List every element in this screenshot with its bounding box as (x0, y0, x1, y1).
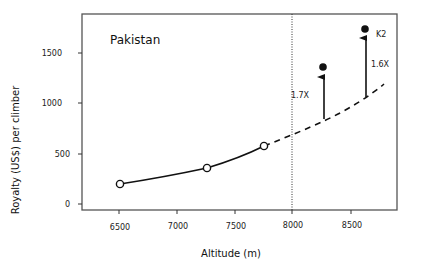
ratio-label-1-7x: 1.7X (291, 91, 310, 100)
y-axis: 0 500 1000 1500 (42, 49, 82, 209)
chart: 0 500 1000 1500 6500 7000 7500 8000 8500… (0, 0, 421, 271)
data-point-open (116, 180, 123, 187)
x-tick-label: 6500 (110, 223, 130, 232)
data-point-open (260, 142, 267, 149)
k2-label: K2 (376, 30, 386, 39)
data-point-filled-k2 (361, 25, 369, 33)
y-tick-label: 0 (65, 200, 70, 209)
x-tick-label: 8000 (283, 221, 303, 230)
y-tick-label: 1500 (42, 49, 62, 58)
x-tick-label: 7500 (226, 222, 246, 231)
x-tick-label: 8500 (342, 221, 362, 230)
y-axis-label: Royalty (US$) per climber (10, 85, 21, 215)
y-tick-label: 500 (55, 150, 70, 159)
y-tick-label: 1000 (42, 99, 62, 108)
data-point-filled (319, 63, 327, 71)
chart-title: Pakistan (110, 33, 160, 47)
observed-curve (120, 146, 264, 184)
x-tick-label: 7000 (168, 222, 188, 231)
x-axis: 6500 7000 7500 8000 8500 (110, 210, 362, 232)
ratio-label-1-6x: 1.6X (371, 60, 390, 69)
x-axis-label: Altitude (m) (201, 248, 261, 259)
data-point-open (203, 164, 210, 171)
